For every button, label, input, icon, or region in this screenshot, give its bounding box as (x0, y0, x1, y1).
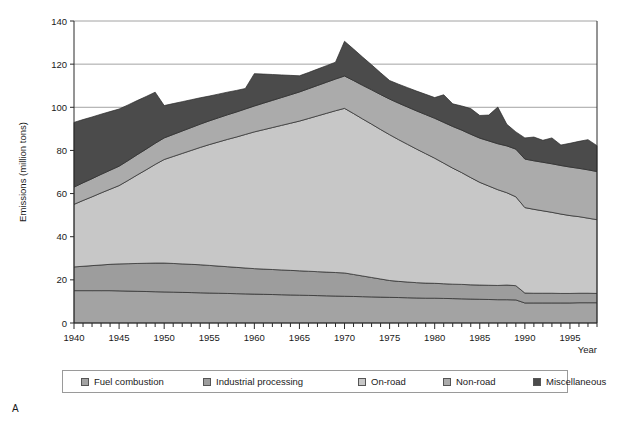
x-tick-label: 1950 (154, 332, 175, 343)
legend-swatch (358, 378, 366, 386)
y-tick-label: 60 (56, 188, 67, 199)
legend-swatch (443, 378, 451, 386)
y-tick-label: 20 (56, 274, 67, 285)
figure-panel: 020406080100120140 194019451950195519601… (0, 0, 630, 425)
y-tick-label: 120 (51, 59, 67, 70)
x-tick-label: 1945 (109, 332, 130, 343)
x-axis-tick-labels: 1940194519501955196019651970197519801985… (63, 332, 580, 343)
legend-swatch (203, 378, 211, 386)
x-tick-label: 1980 (424, 332, 445, 343)
legend-swatch (533, 378, 541, 386)
y-tick-label: 100 (51, 102, 67, 113)
legend-item[interactable]: Miscellaneous (533, 377, 606, 387)
y-axis-ticks (70, 21, 74, 323)
y-axis-tick-labels: 020406080100120140 (51, 16, 67, 329)
x-tick-label: 1965 (289, 332, 310, 343)
x-axis-ticks (74, 323, 597, 329)
x-tick-label: 1940 (63, 332, 84, 343)
legend-label: Fuel combustion (94, 377, 164, 387)
legend-label: Industrial processing (216, 377, 303, 387)
legend-label: Miscellaneous (546, 377, 606, 387)
y-tick-label: 80 (56, 145, 67, 156)
x-tick-label: 1970 (334, 332, 355, 343)
x-tick-label: 1995 (559, 332, 580, 343)
x-tick-label: 1975 (379, 332, 400, 343)
y-axis-title: Emissions (million tons) (17, 122, 28, 222)
x-axis-title: Year (578, 344, 597, 355)
panel-letter: A (12, 403, 19, 414)
x-tick-label: 1955 (199, 332, 220, 343)
x-tick-label: 1990 (514, 332, 535, 343)
legend-item[interactable]: Fuel combustion (81, 377, 164, 387)
chart-legend: Fuel combustionIndustrial processingOn-r… (62, 370, 568, 393)
y-tick-label: 140 (51, 16, 67, 27)
legend-item[interactable]: Industrial processing (203, 377, 303, 387)
legend-item[interactable]: Non-road (443, 377, 496, 387)
legend-label: Non-road (456, 377, 496, 387)
legend-swatch (81, 378, 89, 386)
x-tick-label: 1960 (244, 332, 265, 343)
stacked-area-chart: 020406080100120140 194019451950195519601… (0, 0, 630, 425)
y-tick-label: 40 (56, 231, 67, 242)
legend-label: On-road (371, 377, 406, 387)
y-tick-label: 0 (62, 318, 67, 329)
legend-item[interactable]: On-road (358, 377, 406, 387)
x-tick-label: 1985 (469, 332, 490, 343)
